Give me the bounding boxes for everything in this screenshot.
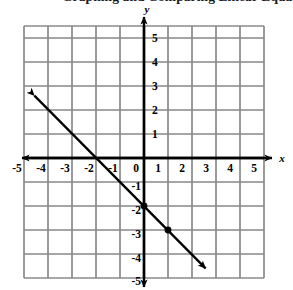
y-tick-label: 1 <box>152 128 158 140</box>
x-tick-label: -5 <box>12 162 22 174</box>
y-tick-label: -4 <box>131 252 141 264</box>
x-tick-label: 3 <box>203 162 209 174</box>
x-tick-label-zero: 0 <box>133 162 139 174</box>
x-tick-label: -4 <box>36 162 46 174</box>
x-tick-label: 2 <box>179 162 185 174</box>
x-tick-label: 1 <box>155 162 161 174</box>
x-tick-label: -2 <box>84 162 94 174</box>
x-tick-label: -3 <box>60 162 70 174</box>
y-tick-label: -1 <box>131 180 141 192</box>
y-tick-label: 2 <box>152 104 158 116</box>
y-axis-label: y <box>143 3 150 15</box>
coordinate-plane-graph: x y -5 -4 -3 -2 -1 0 1 2 3 4 5 5 4 3 2 1… <box>0 0 293 290</box>
x-tick-labels: -5 -4 -3 -2 -1 0 1 2 3 4 5 <box>12 162 257 174</box>
plotted-point <box>165 227 172 234</box>
x-tick-label: 5 <box>251 162 257 174</box>
x-axis-label: x <box>278 152 285 164</box>
y-tick-label: -3 <box>131 228 141 240</box>
y-tick-label: 5 <box>152 32 158 44</box>
y-tick-label: 3 <box>152 80 158 92</box>
plotted-point <box>141 203 148 210</box>
axes <box>22 17 272 287</box>
x-tick-label: 4 <box>227 162 233 174</box>
y-tick-label: -5 <box>131 275 141 287</box>
y-tick-label: -2 <box>131 204 141 216</box>
y-tick-label: 4 <box>152 56 158 68</box>
